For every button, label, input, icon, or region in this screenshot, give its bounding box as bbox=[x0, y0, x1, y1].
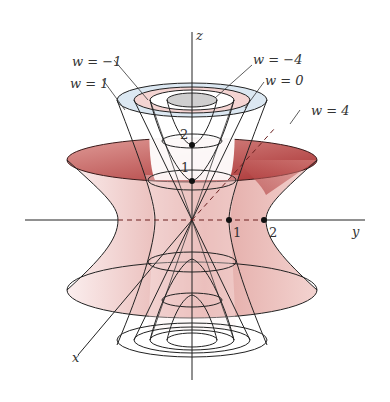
label-w-0: w = 0 bbox=[265, 73, 304, 88]
label-w-minus-1: w = −1 bbox=[72, 54, 121, 69]
z-tick-2: 2 bbox=[180, 127, 188, 142]
label-w-1: w = 1 bbox=[70, 76, 109, 91]
x-axis-label: x bbox=[72, 350, 80, 365]
y-tick-2: 2 bbox=[269, 225, 277, 240]
z-tick-1: 1 bbox=[181, 160, 189, 175]
label-w-4: w = 4 bbox=[311, 103, 350, 118]
label-w-minus-4: w = −4 bbox=[253, 52, 302, 67]
y-axis-label: y bbox=[351, 224, 360, 239]
z-axis-label: z bbox=[195, 28, 203, 43]
y-tick-1: 1 bbox=[233, 225, 241, 240]
level-surfaces-diagram: z y x 2 1 1 2 w = −1 w = 1 w = −4 w = 0 … bbox=[0, 0, 390, 402]
